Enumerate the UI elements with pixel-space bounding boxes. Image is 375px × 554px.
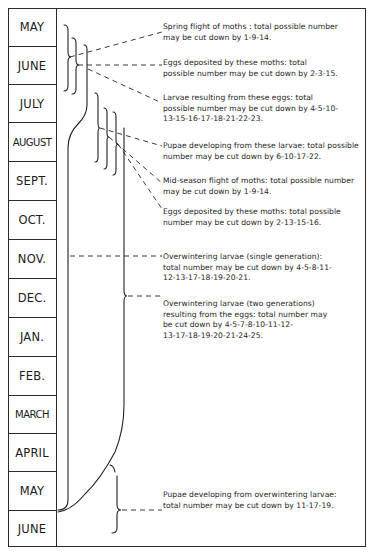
brace-pupae-overwintering [110, 465, 115, 472]
stage-label-pupae-summer: Pupae developing from these larvae: tota… [163, 141, 359, 162]
brace-spring-flight [64, 25, 71, 91]
brace-pupae-summer [95, 93, 100, 162]
brace-pupae-overwintering-lower [112, 476, 121, 533]
stage-label-overwintering-two: Overwintering larvae (two generations) r… [163, 299, 327, 341]
leader-larvae [88, 69, 162, 103]
brace-eggs-midseason [113, 112, 118, 175]
stage-label-larvae: Larvae resulting from these eggs: total … [163, 93, 338, 125]
brace-eggs-spring [72, 38, 79, 94]
stage-label-eggs-spring: Eggs deposited by these moths: total pos… [163, 58, 338, 79]
leader-eggs-midseason [118, 144, 162, 209]
stage-label-eggs-midseason: Eggs deposited by these moths: total pos… [163, 207, 341, 228]
bracket-larvae-lifecycle [58, 45, 87, 510]
stage-label-pupae-overwintering: Pupae developing from overwintering larv… [163, 490, 337, 511]
brace-midseason-flight [104, 108, 109, 169]
stage-label-midseason-flight: Mid-season flight of moths: total possib… [163, 176, 354, 197]
stage-label-spring-flight: Spring flight of moths : total possible … [163, 22, 338, 43]
stage-label-overwintering-single: Overwintering larvae (single generation)… [163, 252, 332, 284]
